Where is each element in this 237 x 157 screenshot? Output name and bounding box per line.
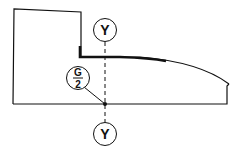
- leader-line: [84, 87, 105, 104]
- marker-bottom-y: Y: [94, 123, 117, 146]
- marker-top-label: Y: [100, 22, 110, 38]
- marker-bottom-label: Y: [100, 126, 110, 142]
- fraction-marker: G 2: [67, 67, 90, 91]
- center-point: [103, 102, 107, 106]
- thick-edge: [80, 46, 166, 61]
- fraction-denominator: 2: [75, 79, 81, 90]
- fraction-numerator: G: [74, 67, 82, 78]
- diagram-canvas: Y Y G 2: [0, 0, 237, 157]
- marker-top-y: Y: [94, 19, 117, 42]
